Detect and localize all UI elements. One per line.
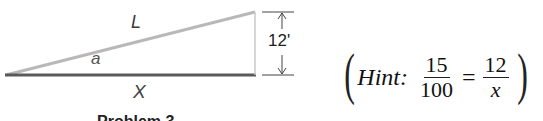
fraction-right: 12 x [483,53,509,100]
fraction-left: 15 100 [418,53,455,100]
fraction-right-denominator: x [489,78,503,101]
ramp-triangle-diagram: L a X 12' Problem 3 [0,0,300,121]
close-paren: ) [517,45,528,103]
fraction-left-numerator: 15 [424,53,450,77]
equals-sign: = [462,64,476,91]
hint-equation: ( Hint: 15 100 = 12 x ) [340,44,532,110]
fraction-right-numerator: 12 [483,53,509,77]
hypotenuse-label: L [131,12,141,33]
height-label: 12' [268,31,290,51]
angle-label: a [91,49,100,69]
open-paren: ( [344,45,355,103]
base-label: X [133,81,146,103]
fraction-left-denominator: 100 [418,78,455,101]
hint-word: Hint: [357,64,408,91]
triangle-figure [0,0,300,121]
problem-caption: Problem 3 [97,113,174,121]
